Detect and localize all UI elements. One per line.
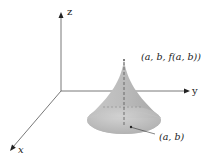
base-point [130, 126, 132, 128]
y-axis-label: y [191, 85, 198, 96]
base-point-label: (a, b) [159, 131, 184, 142]
x-axis-label: x [18, 144, 24, 155]
x-axis [10, 91, 61, 151]
surface-diagram: z y x (a, b, f(a, b)) (a, b) [0, 0, 206, 159]
z-arrow-icon [59, 12, 64, 18]
apex-point [123, 59, 125, 61]
z-axis-label: z [67, 6, 72, 17]
apex-point-label: (a, b, f(a, b)) [141, 51, 201, 62]
x-arrow-icon [10, 145, 16, 152]
y-arrow-icon [184, 89, 190, 94]
surface-graph [87, 59, 161, 134]
z-axis [59, 12, 64, 91]
